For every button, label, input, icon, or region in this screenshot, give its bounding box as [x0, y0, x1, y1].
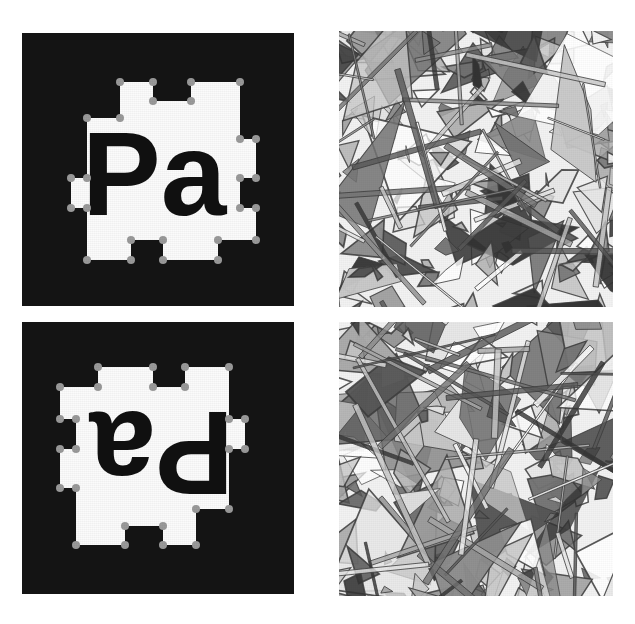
texture-svg-bottom-right	[339, 322, 613, 596]
panel-bottom-left[interactable]: Pa	[22, 322, 294, 594]
panel-top-right[interactable]	[339, 31, 613, 307]
mask-letters: Pa	[88, 387, 234, 519]
texture-svg-top-right	[339, 31, 613, 307]
mask-letters: Pa	[82, 108, 228, 240]
texture-shard	[608, 152, 613, 164]
mask-svg-bottom-left: Pa	[22, 322, 294, 594]
mask-svg-top-left: Pa	[22, 33, 294, 306]
figure-grid: Pa	[0, 0, 635, 624]
panel-bottom-right[interactable]	[339, 322, 613, 596]
figure-title: Four-panel grayscale figure	[0, 0, 1, 1]
panel-top-left[interactable]: Pa	[22, 33, 294, 306]
